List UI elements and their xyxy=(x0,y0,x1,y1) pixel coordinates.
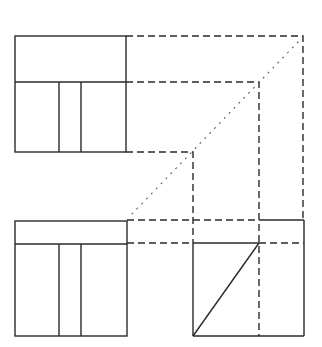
top-view-outline xyxy=(15,36,126,152)
miter-line xyxy=(130,42,298,216)
orthographic-drawing xyxy=(0,0,322,347)
side-view xyxy=(193,220,304,336)
top-projection-lines xyxy=(126,36,303,336)
projection-line-inner xyxy=(126,152,193,243)
side-view-diagonal xyxy=(193,243,259,336)
front-view xyxy=(15,221,127,336)
front-view-outline xyxy=(15,221,127,336)
top-view xyxy=(15,36,126,152)
